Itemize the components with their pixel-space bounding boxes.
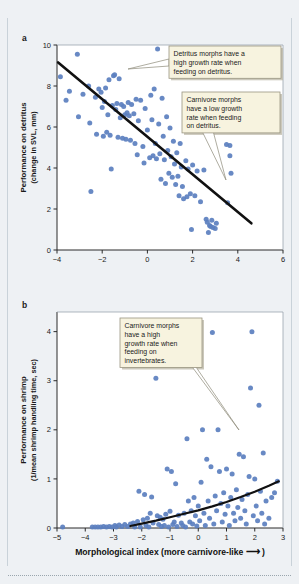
data-point xyxy=(194,524,199,529)
data-point xyxy=(266,516,271,521)
data-point xyxy=(99,90,104,95)
data-point xyxy=(211,522,216,527)
data-point xyxy=(180,184,185,189)
y-axis-title-line2-b: (1/mean shrimp handling time, sec) xyxy=(29,358,38,481)
data-point xyxy=(88,189,93,194)
data-point xyxy=(154,156,159,161)
data-point xyxy=(255,518,260,523)
x-tick-label: −4 xyxy=(81,533,90,542)
data-point xyxy=(238,516,243,521)
data-point xyxy=(183,525,188,530)
data-point xyxy=(127,113,132,118)
x-tick-label: 2 xyxy=(191,255,195,264)
data-point xyxy=(166,171,171,176)
data-point xyxy=(138,98,143,103)
data-point xyxy=(135,152,140,157)
data-point xyxy=(171,139,176,144)
data-point xyxy=(166,525,171,530)
data-point xyxy=(201,168,206,173)
data-point xyxy=(162,157,167,162)
data-point xyxy=(259,511,264,516)
data-point xyxy=(142,492,147,497)
x-tick-label: −4 xyxy=(53,255,62,264)
data-point xyxy=(136,118,141,123)
data-point xyxy=(247,474,252,479)
data-point xyxy=(108,133,113,138)
data-point xyxy=(224,467,229,472)
x-tick-label: 6 xyxy=(281,255,285,264)
data-point xyxy=(244,522,249,527)
data-point xyxy=(195,169,200,174)
callout-line: growth rate when xyxy=(125,340,178,348)
data-point xyxy=(140,144,145,149)
data-point xyxy=(121,104,126,109)
data-point xyxy=(256,403,261,408)
data-point xyxy=(231,511,236,516)
data-point xyxy=(131,111,136,116)
scatter-figure: a0246810−4−20246Performance on detritus(… xyxy=(0,0,299,584)
data-point xyxy=(100,105,105,110)
x-tick-label: −2 xyxy=(98,255,107,264)
data-point xyxy=(149,495,154,500)
data-point xyxy=(235,505,240,510)
data-point xyxy=(161,134,166,139)
data-point xyxy=(146,525,151,530)
x-tick-label: 4 xyxy=(236,255,240,264)
data-point xyxy=(207,516,212,521)
data-point xyxy=(109,167,114,172)
callout-line: Carnivore morphs xyxy=(187,96,242,104)
data-point xyxy=(178,141,183,146)
data-point xyxy=(87,120,92,125)
callout-line: on detritus. xyxy=(187,122,221,129)
data-point xyxy=(58,74,63,79)
data-point xyxy=(168,126,173,131)
data-point xyxy=(197,518,202,523)
data-point xyxy=(189,227,194,232)
data-point xyxy=(232,518,237,523)
panel-label-b: b xyxy=(22,300,27,310)
data-point xyxy=(254,503,259,508)
data-point xyxy=(227,153,232,158)
data-point xyxy=(94,132,99,137)
callout-line: have a low growth xyxy=(187,105,243,113)
x-tick-label: −1 xyxy=(166,533,175,542)
x-axis-title-text: Morphological index (more carnivore-like… xyxy=(75,546,265,557)
data-point xyxy=(223,512,228,517)
data-point xyxy=(169,469,174,474)
data-point xyxy=(128,138,133,143)
y-axis-title-line2-a: (change in SVL, mm) xyxy=(29,111,38,184)
data-point xyxy=(148,93,153,98)
data-point xyxy=(173,481,178,486)
data-point xyxy=(145,516,150,521)
data-point xyxy=(164,114,169,119)
data-point xyxy=(162,523,167,528)
callout-line: high growth rate when xyxy=(174,59,242,67)
x-tick-label: −2 xyxy=(137,533,146,542)
data-point xyxy=(148,511,153,516)
data-point xyxy=(216,427,221,432)
data-point xyxy=(192,193,197,198)
data-point xyxy=(156,121,161,126)
data-point xyxy=(217,469,222,474)
data-point xyxy=(112,72,117,77)
data-point xyxy=(225,503,230,508)
callout-line: rate when feeding xyxy=(187,114,242,122)
callout-line: Carnivore morphs xyxy=(125,322,180,330)
callout-line: invertebrates. xyxy=(125,357,167,364)
x-tick-label: 2 xyxy=(253,533,257,542)
data-point xyxy=(158,177,163,182)
data-point xyxy=(251,513,256,518)
data-point xyxy=(213,494,218,499)
data-point xyxy=(114,101,119,106)
data-point xyxy=(155,47,160,52)
data-point xyxy=(200,427,205,432)
x-tick-label: 1 xyxy=(224,533,228,542)
data-point xyxy=(165,467,170,472)
data-point xyxy=(64,98,69,103)
data-point xyxy=(214,508,219,513)
data-point xyxy=(116,135,121,140)
data-point xyxy=(188,191,193,196)
data-point xyxy=(142,160,147,165)
data-point xyxy=(201,511,206,516)
callout-line: feeding on detritus. xyxy=(174,68,233,76)
